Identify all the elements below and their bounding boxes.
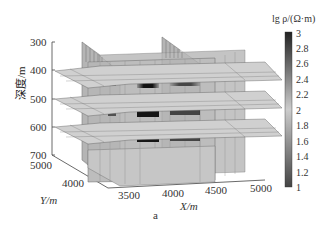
z-tick: 600 [30,122,47,133]
colorbar-tick: 2 [296,106,301,116]
y-tick: 5000 [30,160,52,171]
colorbar-label: lg ρ/(Ω·m) [272,14,315,24]
y-tick: 4000 [62,178,84,189]
colorbar-tick: 1.8 [296,121,309,131]
colorbar-tick: 3 [296,29,301,39]
z-tick: 400 [30,65,47,76]
colorbar-tick: 2.6 [296,59,309,69]
colorbar-tick: 1.2 [296,168,309,178]
colorbar-tick: 1.6 [296,137,309,147]
x-tick: 5000 [250,183,272,194]
y-axis-label: Y/m [40,195,57,206]
colorbar-tick: 2.2 [296,90,309,100]
colorbar [285,32,292,187]
x-tick: 4000 [162,188,184,199]
colorbar-tick: 2.8 [296,44,309,54]
x-tick: 3500 [118,190,140,201]
z-axis-label: 深度/m [12,66,28,100]
colorbar-tick: 1.4 [296,152,309,162]
z-axis [52,42,55,155]
subfigure-label: a [153,210,158,221]
colorbar-tick: 1 [296,183,301,193]
z-tick: 500 [30,94,47,105]
x-tick: 4500 [205,185,227,196]
x-axis-label: X/m [180,201,198,212]
colorbar-tick: 2.4 [296,75,309,85]
z-tick: 300 [30,37,47,48]
